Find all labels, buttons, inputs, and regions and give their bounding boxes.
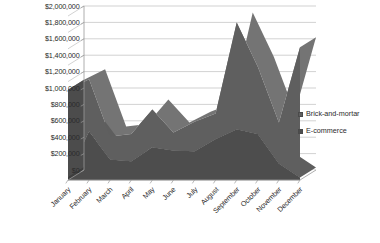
area-chart: $0$200,000$400,000$600,000$800,000$1,000… [0, 0, 380, 243]
x-tickmark [150, 180, 152, 183]
series-left-cap-1 [68, 80, 84, 177]
y-axis-tick-label: $1,200,000 [45, 67, 79, 76]
x-tickmark [256, 180, 258, 183]
legend-item-label: Brick-and-mortar [306, 110, 360, 118]
x-tickmark [108, 180, 110, 183]
y-tickmark [81, 6, 84, 8]
y-axis-tick-label: $1,000,000 [45, 84, 79, 93]
legend-item[interactable]: Brick-and-mortar [298, 110, 360, 118]
x-tickmark [171, 180, 173, 183]
x-tickmark [192, 180, 194, 183]
y-tickmark [81, 39, 84, 41]
y-axis-tick-label: $1,400,000 [45, 51, 79, 60]
y-axis-tick-label: $400,000 [51, 133, 80, 142]
y-tickmark [81, 55, 84, 57]
x-tickmark [87, 180, 89, 183]
legend-item[interactable]: E-commerce [298, 127, 360, 135]
y-tickmark [81, 72, 84, 74]
x-tickmark [129, 180, 131, 183]
legend-swatch-icon [298, 129, 303, 134]
y-tickmark [81, 22, 84, 24]
y-axis-tick-label: $2,000,000 [45, 2, 79, 11]
x-tickmark [66, 180, 68, 183]
y-axis-tick-label: $200,000 [51, 149, 80, 158]
y-axis-tick-label: $1,600,000 [45, 34, 79, 43]
x-tickmark [213, 180, 215, 183]
y-axis-tick-label: $0 [72, 166, 80, 175]
x-tickmark [298, 180, 300, 183]
x-tickmark [235, 180, 237, 183]
x-tickmark [277, 180, 279, 183]
legend-swatch-icon [298, 112, 303, 117]
y-axis-tick-label: $1,800,000 [45, 18, 79, 27]
y-axis-tick-label: $800,000 [51, 100, 80, 109]
legend-item-label: E-commerce [306, 127, 347, 135]
y-axis-tick-label: $600,000 [51, 116, 80, 125]
chart-legend: Brick-and-mortarE-commerce [298, 110, 360, 144]
